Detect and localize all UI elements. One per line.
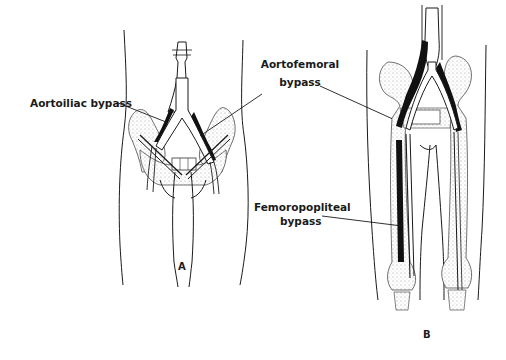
panel-b-drawing — [367, 5, 486, 310]
bypass-illustration — [0, 0, 506, 360]
torso-outline-left — [119, 30, 126, 285]
label-aortofemoral-line2: bypass — [260, 75, 340, 89]
torso-outline-right — [240, 40, 248, 285]
panel-b-letter: B — [423, 329, 431, 340]
label-aortofemoral-bypass: Aortofemoral bypass — [260, 57, 340, 89]
label-femoropopliteal-line1: Femoropopliteal — [254, 200, 350, 214]
aorta-b — [425, 8, 440, 66]
label-femoropopliteal-bypass: Femoropopliteal bypass — [254, 200, 350, 228]
label-femoropopliteal-line2: bypass — [254, 214, 350, 228]
label-aortoiliac-bypass: Aortoiliac bypass — [30, 96, 132, 110]
panel-a-drawing — [119, 30, 248, 287]
panel-a-letter: A — [178, 261, 186, 272]
label-aortofemoral-line1: Aortofemoral — [260, 57, 340, 71]
panel-a-leaders — [118, 86, 406, 136]
